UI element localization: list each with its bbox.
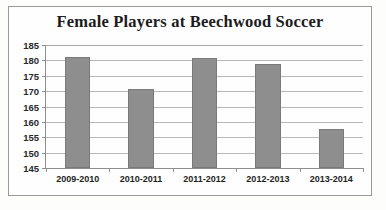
y-axis-tick (42, 153, 46, 154)
y-axis-tick (42, 76, 46, 77)
x-axis-tick (109, 168, 110, 172)
chart-figure: Female Players at Beechwood Soccer 18518… (8, 6, 372, 196)
y-axis-tick-label: 155 (23, 132, 39, 143)
y-axis-tick (42, 107, 46, 108)
x-axis-tick (300, 168, 301, 172)
y-axis-tick (42, 137, 46, 138)
x-axis-tick-label: 2013-2014 (310, 174, 353, 184)
y-axis-tick-label: 175 (23, 70, 39, 81)
x-axis-tick (363, 168, 364, 172)
plot-area: 1851801751701651601551501452009-20102010… (45, 45, 363, 169)
y-axis-tick-label: 160 (23, 116, 39, 127)
x-axis-tick (236, 168, 237, 172)
y-axis-tick (42, 122, 46, 123)
y-axis-tick-label: 170 (23, 86, 39, 97)
x-axis-tick-label: 2011-2012 (183, 174, 226, 184)
bar (255, 64, 280, 168)
y-axis-tick (42, 45, 46, 46)
x-axis-tick-label: 2009-2010 (56, 174, 99, 184)
page-background: Female Players at Beechwood Soccer 18518… (0, 0, 386, 210)
bar (192, 58, 217, 168)
y-axis-tick-label: 165 (23, 101, 39, 112)
gridline (46, 45, 363, 46)
bar (128, 89, 153, 168)
y-axis-tick (42, 60, 46, 61)
bar (319, 129, 344, 168)
y-axis-tick (42, 91, 46, 92)
x-axis-tick (46, 168, 47, 172)
y-axis-tick-label: 145 (23, 163, 39, 174)
x-axis-tick-label: 2010-2011 (120, 174, 163, 184)
y-axis-tick-label: 185 (23, 40, 39, 51)
bar (65, 57, 90, 168)
x-axis-tick (173, 168, 174, 172)
y-axis-tick-label: 150 (23, 147, 39, 158)
x-axis-tick-label: 2012-2013 (246, 174, 289, 184)
y-axis-tick-label: 180 (23, 55, 39, 66)
chart-title: Female Players at Beechwood Soccer (9, 12, 371, 32)
